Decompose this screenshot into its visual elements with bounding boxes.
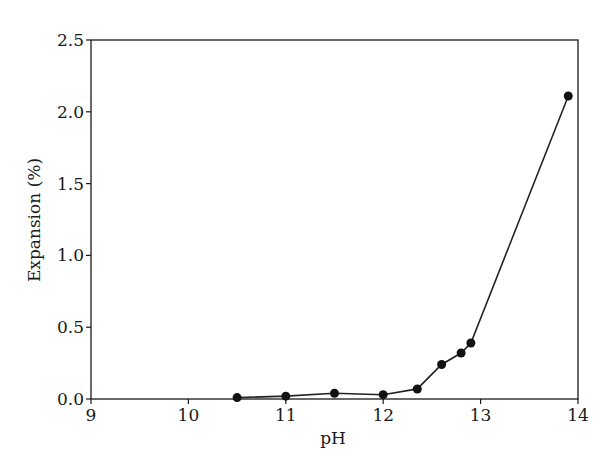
- x-tick-label: 11: [275, 405, 297, 425]
- x-tick-label: 10: [178, 405, 200, 425]
- y-tick-label: 1.5: [57, 174, 84, 194]
- y-axis-ticks: 0.00.51.01.52.02.5: [57, 30, 91, 409]
- x-tick-label: 9: [86, 405, 97, 425]
- data-line: [237, 96, 568, 398]
- series-polyline: [237, 96, 568, 398]
- data-point-marker: [233, 393, 242, 402]
- x-tick-label: 12: [372, 405, 394, 425]
- y-tick-label: 2.0: [57, 102, 84, 122]
- y-tick-label: 2.5: [57, 30, 84, 50]
- data-point-marker: [281, 392, 290, 401]
- plot-frame: [91, 40, 578, 399]
- x-tick-label: 14: [567, 405, 589, 425]
- x-tick-label: 13: [470, 405, 492, 425]
- y-tick-label: 1.0: [57, 245, 84, 265]
- data-point-marker: [379, 390, 388, 399]
- y-tick-label: 0.5: [57, 317, 84, 337]
- data-point-marker: [466, 338, 475, 347]
- data-point-marker: [437, 360, 446, 369]
- data-point-marker: [564, 92, 573, 101]
- x-axis-ticks: 91011121314: [86, 399, 589, 425]
- plot-border: [91, 40, 578, 399]
- data-point-marker: [457, 349, 466, 358]
- chart: 0.00.51.01.52.02.5 91011121314 pH Expans…: [0, 0, 616, 468]
- data-point-marker: [330, 389, 339, 398]
- x-axis-label: pH: [320, 428, 346, 448]
- y-tick-label: 0.0: [57, 389, 84, 409]
- data-markers: [233, 92, 573, 403]
- y-axis-label: Expansion (%): [24, 158, 44, 282]
- data-point-marker: [413, 384, 422, 393]
